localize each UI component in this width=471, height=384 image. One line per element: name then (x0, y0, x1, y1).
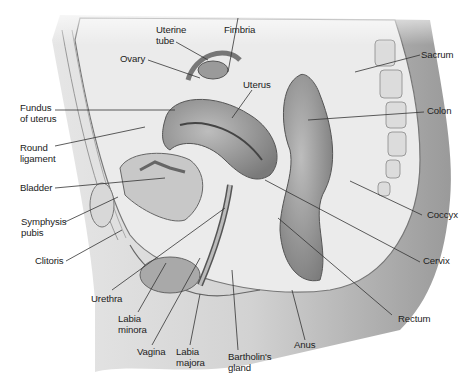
label-cervix: Cervix (423, 256, 450, 267)
label-clitoris: Clitoris (35, 256, 64, 267)
label-labia-minora: Labia minora (118, 314, 147, 335)
label-bartholins-gland: Bartholin's gland (228, 352, 271, 373)
label-vagina: Vagina (137, 347, 166, 358)
anatomy-illustration (0, 0, 471, 384)
ovary (198, 61, 228, 79)
label-fimbria: Fimbria (224, 25, 255, 36)
label-round-ligament: Round ligament (20, 143, 55, 164)
label-anus: Anus (294, 340, 315, 351)
symphysis-pubis (90, 183, 114, 227)
label-uterine-tube: Uterine tube (156, 25, 186, 46)
label-ovary: Ovary (120, 54, 145, 65)
label-rectum: Rectum (398, 314, 430, 325)
label-bladder: Bladder (20, 183, 52, 194)
anatomy-diagram: Uterine tube Fimbria Ovary Uterus Sacrum… (0, 0, 471, 384)
label-symphysis-pubis: Symphysis pubis (21, 217, 66, 238)
label-fundus-of-uterus: Fundus of uterus (20, 103, 56, 124)
label-uterus: Uterus (243, 80, 271, 91)
label-coccyx: Coccyx (427, 210, 458, 221)
label-urethra: Urethra (91, 294, 122, 305)
label-sacrum: Sacrum (421, 50, 453, 61)
label-colon: Colon (427, 106, 452, 117)
label-labia-majora: Labia majora (176, 347, 205, 368)
